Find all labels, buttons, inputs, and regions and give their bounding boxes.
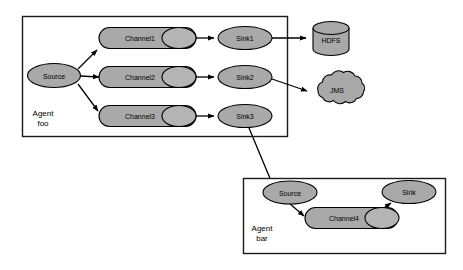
hdfs-node[interactable]: HDFS — [313, 22, 349, 56]
channel1-queue-head — [162, 28, 196, 49]
agent-foo-label-line1: Agent — [33, 109, 55, 118]
agent-bar-source-node[interactable]: Source — [263, 181, 317, 204]
sink2-ellipse — [218, 66, 272, 89]
channel4-queue-head — [365, 208, 399, 229]
diagram-canvas: Agent foo Source Channel1 Channel2 — [0, 0, 463, 270]
agent-bar-sink-node[interactable]: Sink — [382, 181, 436, 204]
sink1-ellipse — [218, 27, 272, 50]
agent-foo-sink1-node[interactable]: Sink1 — [218, 27, 272, 50]
jms-node[interactable]: JMS — [318, 71, 365, 104]
jms-cloud-shape — [318, 71, 365, 104]
agent-bar-source-ellipse — [263, 181, 317, 204]
sink3-ellipse — [218, 105, 272, 128]
agent-foo-label-line2: foo — [37, 119, 49, 128]
source-ellipse — [28, 64, 81, 88]
hdfs-cylinder-body — [313, 22, 349, 56]
agent-bar-label-line2: bar — [256, 234, 268, 243]
agent-foo-channel2-node[interactable]: Channel2 — [99, 67, 196, 88]
agent-foo-sink3-node[interactable]: Sink3 — [218, 105, 272, 128]
channel3-queue-head — [162, 106, 196, 127]
channel2-queue-head — [162, 67, 196, 88]
agent-bar-sink-ellipse — [382, 181, 436, 204]
agent-foo-channel1-node[interactable]: Channel1 — [99, 28, 196, 49]
flume-architecture-diagram: Agent foo Source Channel1 Channel2 — [0, 0, 463, 270]
agent-foo-source-node[interactable]: Source — [28, 64, 81, 88]
agent-foo-sink2-node[interactable]: Sink2 — [218, 66, 272, 89]
agent-foo-channel3-node[interactable]: Channel3 — [99, 106, 196, 127]
agent-bar-channel4-node[interactable]: Channel4 — [305, 208, 399, 229]
agent-bar-label-line1: Agent — [252, 224, 274, 233]
